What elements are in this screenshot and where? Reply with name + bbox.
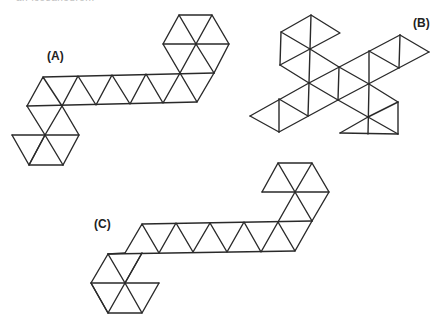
icosahedron-nets-diagram [0,0,442,326]
net-figure-b [250,15,429,134]
net-figure-c [91,163,329,313]
net-figure-a [12,15,229,165]
